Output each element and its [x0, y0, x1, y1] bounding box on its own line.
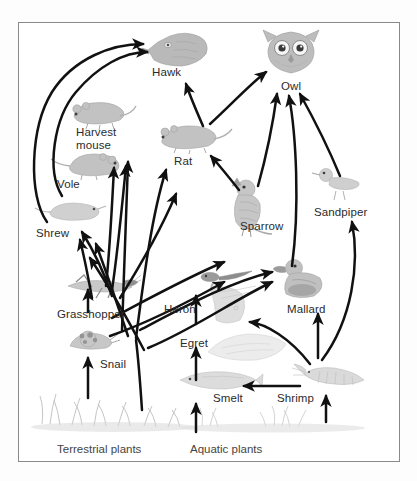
- label-aquatic-plants: Aquatic plants: [190, 443, 262, 455]
- label-heron: Heron: [164, 303, 196, 316]
- label-snail: Snail: [100, 358, 126, 371]
- label-egret: Egret: [180, 337, 208, 350]
- label-rat: Rat: [174, 155, 192, 168]
- label-shrimp: Shrimp: [277, 392, 314, 405]
- diagram-frame: [18, 22, 400, 462]
- label-shrew: Shrew: [36, 227, 69, 240]
- label-owl: Owl: [281, 80, 301, 93]
- label-terrestrial-plants: Terrestrial plants: [57, 443, 141, 455]
- label-smelt: Smelt: [213, 392, 243, 405]
- label-grasshopper: Grasshopper: [57, 308, 125, 321]
- label-sparrow: Sparrow: [240, 220, 284, 233]
- label-hawk: Hawk: [152, 66, 181, 79]
- food-web-diagram: Hawk Owl Harvest mouse Rat Vole Sandpipe…: [0, 0, 417, 481]
- label-sandpiper: Sandpiper: [314, 206, 367, 219]
- label-mallard: Mallard: [287, 303, 325, 316]
- label-vole: Vole: [57, 178, 80, 191]
- label-harvest-mouse: Harvest mouse: [76, 126, 116, 152]
